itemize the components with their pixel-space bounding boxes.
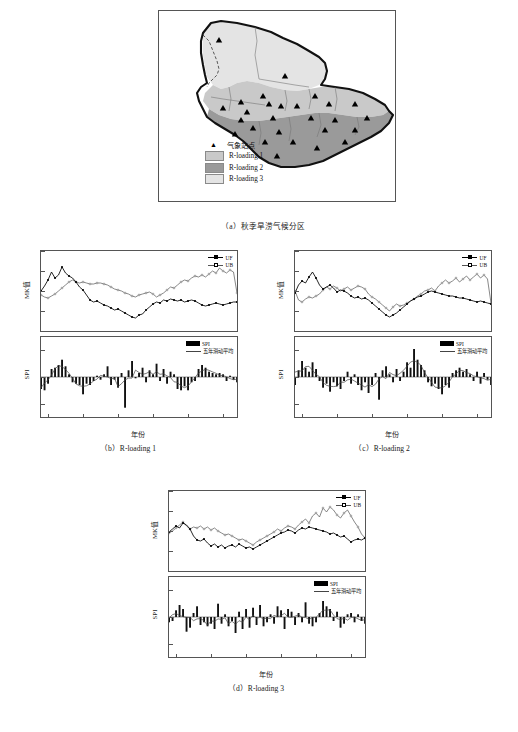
spi-ytick-mark	[41, 350, 45, 351]
legend-label-uf: UF	[226, 255, 233, 261]
legend-item-r-loading-3: R-loading 3	[205, 174, 263, 185]
spi-plot-b: 20-2196019701980199020002010SPI五年滑动平均	[40, 336, 238, 418]
spi-ytick-mark	[169, 590, 173, 591]
lon-tick-mark	[229, 202, 230, 203]
uf-line-icon	[336, 495, 351, 501]
lat-tick-mark	[158, 88, 159, 89]
mk-ytick-mark	[41, 271, 45, 272]
spi-plot-d: 20-2196019701980199020002010SPI五年滑动平均	[168, 576, 366, 658]
legend-label-ub: UB	[226, 262, 234, 268]
legend-label-moving-average: 五年滑动平均	[457, 347, 487, 355]
mk-legend-d: UFUB	[336, 494, 361, 509]
spi-xtick-mark	[118, 414, 119, 418]
legend-label-spi: SPI	[202, 341, 210, 347]
legend-label-stations: 气象站点	[227, 140, 255, 150]
moving-average-line-icon	[314, 588, 329, 594]
spi-xtick-mark	[372, 414, 373, 418]
spi-xtick-mark	[188, 414, 189, 418]
panel-c-r-loading-2: 420-2UFUBMK值20-2196019701980199020002010…	[262, 250, 502, 485]
mk-ytick-mark	[295, 271, 299, 272]
uf-line-icon	[462, 255, 477, 261]
lon-tick-mark	[287, 202, 288, 203]
heilongjiang-map	[159, 11, 395, 201]
triangle-icon: ▲	[205, 141, 222, 149]
legend-item-ub: UB	[462, 262, 487, 270]
mk-ytick-mark	[295, 291, 299, 292]
legend-item-uf: UF	[336, 494, 361, 502]
x-axis-label-d: 年份	[168, 669, 364, 679]
spi-xtick-mark	[211, 654, 212, 658]
spi-ytick-mark	[41, 404, 45, 405]
spi-legend-d: SPI五年滑动平均	[314, 580, 362, 595]
spi-xtick-mark	[153, 414, 154, 418]
mk-plot-b: 420-2UFUB	[40, 250, 238, 332]
spi-ytick-mark	[169, 617, 173, 618]
spi-legend-b: SPI五年滑动平均	[186, 340, 234, 355]
legend-label-moving-average: 五年滑动平均	[203, 347, 233, 355]
spi-xtick-mark	[83, 414, 84, 418]
lon-tick-mark	[316, 202, 317, 203]
mk-legend-b: UFUB	[208, 254, 233, 269]
spi-xtick-mark	[246, 654, 247, 658]
spi-ytick-mark	[295, 404, 299, 405]
spi-xtick-mark	[316, 654, 317, 658]
lat-tick-mark	[158, 120, 159, 121]
legend-item-moving-average: 五年滑动平均	[440, 348, 488, 356]
legend-label-uf: UF	[354, 495, 361, 501]
legend-label-spi: SPI	[330, 581, 338, 587]
lat-tick-mark	[158, 153, 159, 154]
legend-item-moving-average: 五年滑动平均	[314, 588, 362, 596]
legend-item-uf: UF	[462, 254, 487, 262]
legend-item-uf: UF	[208, 254, 233, 262]
legend-label-ub: UB	[354, 502, 362, 508]
spi-xtick-mark	[477, 414, 478, 418]
spi-y-axis-label: SPI	[277, 363, 284, 387]
map-plot-area: ▲ 气象站点 R-loading 1 R-loading 2 R-loading…	[158, 10, 396, 202]
lon-tick-mark	[200, 202, 201, 203]
moving-average-line-icon	[440, 348, 455, 354]
lat-tick-mark	[158, 185, 159, 186]
mk-ytick-mark	[41, 251, 45, 252]
spi-y-axis-label: SPI	[23, 363, 30, 387]
mk-ytick-mark	[41, 291, 45, 292]
legend-item-ub: UB	[336, 502, 361, 510]
mk-ytick-mark	[169, 511, 173, 512]
spi-xtick-mark	[48, 414, 49, 418]
spi-plot-c: 20-2196019701980199020002010SPI五年滑动平均	[294, 336, 492, 418]
x-axis-label-c: 年份	[294, 429, 490, 439]
mk-ytick-mark	[169, 531, 173, 532]
legend-item-stations: ▲ 气象站点	[205, 139, 263, 150]
spi-xtick-mark	[223, 414, 224, 418]
legend-label-moving-average: 五年滑动平均	[331, 587, 361, 595]
spi-xtick-mark	[281, 654, 282, 658]
mk-legend-c: UFUB	[462, 254, 487, 269]
moving-average-line-icon	[186, 348, 201, 354]
swatch-r-loading-2	[205, 163, 224, 173]
spi-xtick-mark	[442, 414, 443, 418]
mk-ytick-mark	[169, 491, 173, 492]
spi-bar-icon	[440, 341, 454, 346]
mk-ytick-mark	[295, 311, 299, 312]
spi-xtick-mark	[407, 414, 408, 418]
spi-ytick-mark	[169, 644, 173, 645]
panel-d-r-loading-3: 420-2UFUBMK值20-2196019701980199020002010…	[136, 490, 376, 725]
spi-bar-icon	[314, 581, 328, 586]
mk-plot-c: 420-2UFUB	[294, 250, 492, 332]
spi-legend-c: SPI五年滑动平均	[440, 340, 488, 355]
spi-bar-icon	[186, 341, 200, 346]
swatch-r-loading-1	[205, 151, 224, 161]
legend-label-spi: SPI	[456, 341, 464, 347]
legend-label-r-loading-3: R-loading 3	[229, 175, 263, 183]
legend-label-ub: UB	[480, 262, 488, 268]
ub-line-icon	[336, 502, 351, 508]
ub-line-icon	[208, 262, 223, 268]
lat-tick-mark	[158, 56, 159, 57]
ub-line-icon	[462, 262, 477, 268]
mk-ytick-mark	[295, 251, 299, 252]
zone-r-loading-3	[203, 21, 327, 91]
x-axis-label-b: 年份	[40, 429, 236, 439]
panel-caption-b: （b）R-loading 1	[8, 442, 248, 453]
legend-item-moving-average: 五年滑动平均	[186, 348, 234, 356]
legend-item-r-loading-1: R-loading 1	[205, 151, 263, 162]
spi-y-axis-label: SPI	[151, 603, 158, 627]
